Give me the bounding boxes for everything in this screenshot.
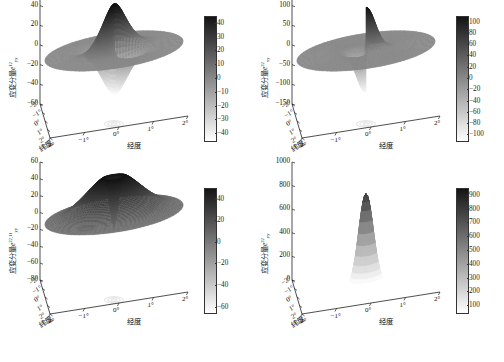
strain-tick (292, 45, 295, 46)
colorbar-tick-mark (467, 222, 469, 223)
colorbar-tick-label: −40 (217, 281, 228, 289)
strain-tick (40, 25, 43, 26)
strain-tick (292, 256, 295, 257)
colorbar-gradient (204, 16, 217, 142)
longitude-tick-label: 2° (182, 120, 188, 127)
colorbar-tick-mark (467, 195, 469, 196)
colorbar-tick-mark (467, 264, 469, 265)
strain-tick (40, 196, 43, 197)
colorbar-tick-mark (215, 199, 217, 200)
colorbar-ticks: 900800700600500400300200100 (469, 188, 495, 312)
colorbar-tick-mark (215, 307, 217, 308)
colorbar-tick-mark (215, 92, 217, 93)
strain-tick-label: 40 (14, 175, 38, 182)
strain-tick-label: 0 (266, 276, 290, 283)
longitude-tick-label: 0° (365, 131, 371, 138)
colorbar-tick-mark (215, 106, 217, 107)
strain-axis-title: 应变分量e22xy (258, 58, 270, 98)
colorbar-tick-mark (467, 78, 469, 79)
longitude-tick-label: −1° (79, 137, 89, 144)
longitude-tick-label: 2° (434, 120, 440, 127)
colorbar-tick-label: −20 (217, 259, 228, 267)
colorbar-gradient (456, 188, 469, 314)
longitude-tick-label: 0° (365, 307, 371, 314)
colorbar-tick-mark (215, 37, 217, 38)
colorbar-tick-mark (467, 33, 469, 34)
colorbar-tick-label: 20 (217, 216, 224, 224)
panel-4: −2°−1°0°1°2°−2°−1°0°1°2°1000800600400200… (252, 178, 504, 350)
longitude-tick-label: 0° (113, 131, 119, 138)
colorbar-tick-mark (215, 220, 217, 221)
colorbar-tick-label: 40 (217, 195, 224, 203)
colorbar-tick-label: 30 (217, 33, 224, 41)
colorbar-tick-label: 300 (469, 274, 480, 282)
longitude-axis-title: 经度 (127, 139, 141, 150)
strain-tick (292, 6, 295, 7)
strain-tick (40, 213, 43, 214)
colorbar-tick-label: 200 (469, 287, 480, 295)
strain-tick-label: 800 (266, 182, 290, 189)
colorbar-tick-mark (215, 64, 217, 65)
colorbar-tick-label: 20 (217, 46, 224, 54)
axes-box: −2°−1°0°1°2°−2°−1°0°1°2°150100500−50−100… (290, 10, 450, 160)
colorbar-tick-label: 0 (217, 238, 221, 246)
strain-tick-label: 50 (266, 21, 290, 28)
colorbar-ticks: 403020100−10−20−30−40 (217, 16, 243, 140)
colorbar-tick-mark (215, 285, 217, 286)
colorbar-tick-label: 0 (469, 74, 473, 82)
colorbar-gradient (204, 188, 217, 314)
strain-tick-label: 0 (266, 41, 290, 48)
colorbar-tick-label: −20 (217, 102, 228, 110)
colorbar: 100806040200−20−40−60−80−100 (456, 16, 467, 140)
strain-axis-title: 应变分量e22yy (258, 234, 270, 274)
colorbar-tick-label: −100 (469, 130, 484, 138)
longitude-tick-label: −1° (79, 313, 89, 320)
strain-tick (292, 233, 295, 234)
colorbar-tick-label: 600 (469, 232, 480, 240)
colorbar-tick-mark (215, 78, 217, 79)
colorbar-tick-mark (215, 119, 217, 120)
longitude-tick-label: 1° (148, 126, 154, 133)
colorbar-tick-label: 10 (217, 60, 224, 68)
strain-tick (292, 84, 295, 85)
colorbar-ticks: 100806040200−20−40−60−80−100 (469, 16, 495, 140)
strain-tick-label: −150 (266, 100, 290, 107)
colorbar-tick-mark (215, 263, 217, 264)
longitude-tick-label: 2° (434, 296, 440, 303)
strain-tick (40, 179, 43, 180)
longitude-tick-label: 1° (148, 302, 154, 309)
strain-tick (40, 84, 43, 85)
strain-tick-label: 100 (266, 2, 290, 9)
colorbar-tick-label: 100 (469, 18, 480, 26)
colorbar-tick-label: 700 (469, 218, 480, 226)
longitude-tick-label: −1° (331, 137, 341, 144)
colorbar-tick-mark (467, 112, 469, 113)
axes-box: −2°−1°0°1°2°−2°−1°0°1°2°6040200−20−40−60… (38, 186, 198, 336)
colorbar-tick-mark (467, 55, 469, 56)
panel-2: −2°−1°0°1°2°−2°−1°0°1°2°150100500−50−100… (252, 2, 504, 174)
strain-tick-label: 0 (14, 209, 38, 216)
longitude-tick-label: 0° (113, 307, 119, 314)
colorbar-tick-mark (467, 236, 469, 237)
colorbar: 403020100−10−20−30−40 (204, 16, 215, 140)
colorbar-tick-label: −20 (469, 85, 480, 93)
colorbar-tick-label: −30 (217, 115, 228, 123)
strain-tick-label: 40 (14, 2, 38, 9)
panel-3: −2°−1°0°1°2°−2°−1°0°1°2°6040200−20−40−60… (0, 178, 252, 350)
colorbar: 900800700600500400300200100 (456, 188, 467, 312)
strain-tick-label: 60 (14, 158, 38, 165)
figure-container: −2°−1°0°1°2°−2°−1°0°1°2°6040200−20−40−60… (0, 0, 504, 362)
colorbar-tick-label: 800 (469, 205, 480, 213)
colorbar-tick-mark (467, 278, 469, 279)
strain-tick (292, 209, 295, 210)
colorbar-tick-mark (215, 133, 217, 134)
longitude-axis-title: 经度 (127, 315, 141, 326)
strain-tick (40, 6, 43, 7)
strain-tick (40, 65, 43, 66)
colorbar-tick-mark (467, 44, 469, 45)
colorbar-tick-mark (467, 250, 469, 251)
colorbar-tick-label: 40 (469, 51, 476, 59)
colorbar-tick-label: 20 (469, 63, 476, 71)
longitude-axis-title: 经度 (379, 139, 393, 150)
strain-axis-title: 应变分量e22,11yy (6, 228, 18, 274)
